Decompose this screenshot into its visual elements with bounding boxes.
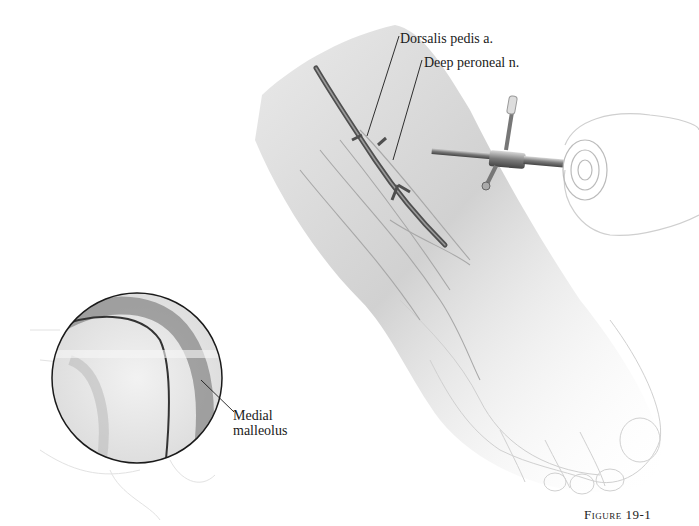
label-medial-malleolus: Medial malleolus bbox=[233, 408, 287, 438]
ankle-arthroscopy-illustration bbox=[0, 0, 699, 526]
label-medial-malleolus-line1: Medial bbox=[233, 408, 287, 423]
figure-caption-text: Figure 19-1 bbox=[584, 507, 651, 522]
label-medial-malleolus-line2: malleolus bbox=[233, 423, 287, 438]
magnified-view bbox=[40, 293, 240, 470]
figure-caption: Figure 19-1 bbox=[584, 507, 651, 523]
label-deep-peroneal: Deep peroneal n. bbox=[424, 55, 519, 70]
label-dorsalis-pedis: Dorsalis pedis a. bbox=[400, 31, 493, 46]
hand bbox=[563, 114, 699, 236]
leg-ankle-shape bbox=[255, 25, 661, 492]
